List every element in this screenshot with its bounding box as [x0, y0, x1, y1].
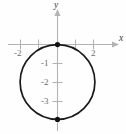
point-bottom — [55, 117, 60, 122]
y-tick-label-minus1: -1 — [41, 59, 49, 68]
circle-graph-figure: y x -2 2 -1 -2 -3 — [0, 0, 126, 134]
x-axis-label: x — [119, 34, 123, 44]
y-axis-group — [53, 9, 63, 131]
point-top — [55, 42, 60, 47]
y-tick-label-minus2: -2 — [41, 78, 49, 87]
y-axis-label: y — [54, 1, 58, 11]
x-tick-label-minus2: -2 — [14, 49, 22, 58]
x-axis-arrowhead — [112, 41, 119, 47]
y-tick-label-minus3: -3 — [41, 97, 49, 106]
coordinate-plane-svg — [0, 0, 126, 134]
x-tick-label-2: 2 — [91, 49, 96, 58]
